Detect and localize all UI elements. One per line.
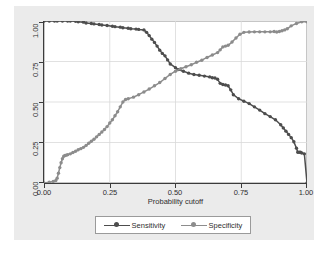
data-point (292, 140, 295, 143)
data-point (132, 95, 135, 98)
data-point (247, 102, 250, 105)
data-point (161, 52, 164, 55)
data-point (230, 40, 233, 43)
data-point (184, 65, 187, 68)
data-point (268, 30, 271, 33)
roc-cutoff-figure: Sensitivity/Specificity 0.00 0.25 0.50 0… (0, 0, 333, 253)
data-point (182, 70, 185, 73)
data-point (87, 142, 90, 145)
data-point (205, 56, 208, 59)
data-point (226, 44, 229, 47)
y-axis-line (43, 21, 44, 183)
data-point (286, 27, 289, 30)
legend-key-sensitivity-icon (104, 221, 130, 229)
data-point (237, 97, 240, 100)
data-point (263, 30, 266, 33)
data-point (100, 23, 103, 26)
data-point (169, 73, 172, 76)
x-axis-title: Probability cutoff (44, 197, 307, 206)
data-point (148, 34, 151, 37)
x-tick-label-4: 1.00 (286, 188, 326, 197)
data-point (166, 58, 169, 61)
data-point (253, 105, 256, 108)
data-point (69, 21, 72, 23)
data-point (92, 138, 95, 141)
x-tick-label-1: 0.25 (90, 188, 130, 197)
data-point (163, 77, 166, 80)
data-point (48, 21, 51, 23)
data-point (287, 133, 290, 136)
data-point (197, 74, 200, 77)
data-point (113, 114, 116, 117)
data-point (100, 130, 103, 133)
data-point (142, 90, 145, 93)
legend-entry-specificity[interactable]: Specificity (181, 221, 243, 230)
data-point (153, 84, 156, 87)
y-tick-label-3: 0.75 (32, 63, 41, 78)
data-point (103, 128, 106, 131)
data-point (232, 93, 235, 96)
data-point (142, 28, 145, 31)
data-point (268, 115, 271, 118)
data-point (108, 121, 111, 124)
data-point (216, 51, 219, 54)
data-point (242, 31, 245, 34)
data-point (126, 97, 129, 100)
data-point (203, 74, 206, 77)
x-tick-label-0: 0.00 (24, 188, 64, 197)
data-point (55, 176, 58, 179)
data-point (290, 136, 293, 139)
data-point (61, 21, 64, 23)
data-point (300, 21, 303, 24)
data-point (58, 166, 61, 169)
x-tick-label-2: 0.50 (155, 188, 195, 197)
data-point (303, 152, 306, 155)
data-point (92, 22, 95, 25)
data-point (169, 62, 172, 65)
x-tick-label-3: 0.75 (221, 188, 261, 197)
data-point (111, 118, 114, 121)
data-point (55, 21, 58, 23)
data-point (295, 146, 298, 149)
chart-legend: Sensitivity Specificity (95, 216, 251, 234)
data-point (98, 133, 101, 136)
data-point (57, 172, 60, 175)
data-point (247, 30, 250, 33)
data-point (195, 61, 198, 64)
data-point (263, 112, 266, 115)
data-point (234, 36, 237, 39)
legend-entry-sensitivity[interactable]: Sensitivity (104, 221, 166, 230)
data-point (105, 24, 108, 27)
data-point (150, 37, 153, 40)
y-tick-label-2: 0.50 (32, 103, 41, 118)
data-point (284, 129, 287, 132)
data-point (113, 25, 116, 28)
data-point (59, 161, 62, 164)
data-point (148, 87, 151, 90)
data-point (129, 27, 132, 30)
data-point (295, 22, 298, 25)
data-point (216, 78, 219, 81)
data-point (44, 21, 46, 23)
data-point (190, 63, 193, 66)
data-point (238, 33, 241, 36)
data-point (282, 126, 285, 129)
data-point (187, 71, 190, 74)
data-point (119, 105, 122, 108)
data-point (305, 21, 307, 24)
data-point (179, 67, 182, 70)
legend-label-sensitivity: Sensitivity (132, 221, 166, 230)
data-point (105, 125, 108, 128)
data-point (155, 44, 158, 47)
data-point (137, 28, 140, 31)
data-point (258, 30, 261, 33)
data-point (163, 54, 166, 57)
data-point (226, 84, 229, 87)
data-point (145, 31, 148, 34)
legend-key-specificity-icon (181, 221, 207, 229)
data-point (192, 73, 195, 76)
data-point (242, 99, 245, 102)
legend-label-specificity: Specificity (209, 221, 243, 230)
data-point (153, 41, 156, 44)
data-point (76, 21, 79, 24)
